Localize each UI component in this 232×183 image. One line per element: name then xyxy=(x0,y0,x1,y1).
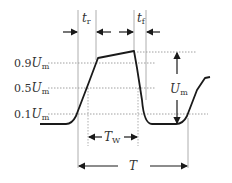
rise-time-label: tr xyxy=(82,11,91,26)
pulse-diagram: 0.9Um 0.5Um 0.1Um tr tf Um TW T xyxy=(0,0,232,183)
period-label: T xyxy=(129,159,138,173)
level-guides xyxy=(48,52,208,114)
pulse-width-label: TW xyxy=(104,130,121,145)
level-90-label: 0.9Um xyxy=(14,56,50,71)
amplitude-label: Um xyxy=(170,82,188,97)
level-10-label: 0.1Um xyxy=(14,107,50,122)
level-50-label: 0.5Um xyxy=(14,81,50,96)
fall-time-label: tf xyxy=(137,11,146,26)
